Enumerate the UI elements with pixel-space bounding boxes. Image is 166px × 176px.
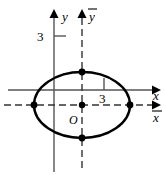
ellipse-vertex-right (127, 102, 134, 109)
solid-y-axis-label: y (60, 9, 68, 24)
ellipse-center-point (79, 102, 85, 108)
x-axis-tick-3-label: 3 (99, 91, 106, 106)
dashed-y-bar-axis-label: y (87, 9, 95, 24)
figure-container: y y x x 3 3 O (0, 0, 166, 176)
solid-x-axis (8, 86, 161, 95)
origin-label: O (69, 113, 78, 127)
dashed-x-bar-axis-label: x (152, 110, 159, 125)
coordinate-diagram: y y x x 3 3 O (0, 0, 166, 176)
y-axis-tick-3-label: 3 (37, 29, 44, 44)
ellipse-vertex-top (79, 69, 86, 76)
dashed-y-bar-axis-arrowhead (78, 9, 87, 18)
ellipse-vertex-left (31, 102, 38, 109)
solid-x-axis-label: x (152, 88, 159, 103)
solid-y-axis-arrowhead (50, 9, 59, 18)
ellipse-vertex-bottom (79, 135, 86, 142)
